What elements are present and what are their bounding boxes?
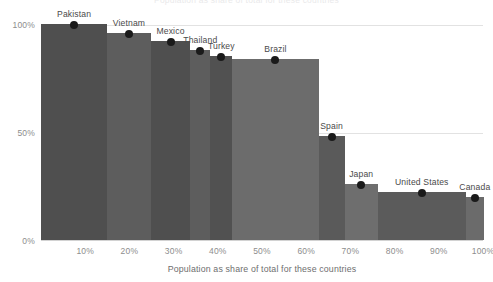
marker-dot-pakistan[interactable] [70, 21, 78, 29]
point-label-pakistan: Pakistan [57, 9, 91, 19]
plot-area: PakistanVietnamMexicoThailandTurkeyBrazi… [41, 25, 483, 241]
bar-turkey[interactable] [210, 56, 232, 240]
point-label-mexico: Mexico [156, 26, 184, 36]
x-tick-90pct: 90% [430, 246, 448, 256]
x-tick-60pct: 60% [297, 246, 315, 256]
x-tick-70pct: 70% [342, 246, 360, 256]
marker-dot-thailand[interactable] [196, 47, 204, 55]
point-label-united-states: United States [395, 177, 449, 187]
x-tick-80pct: 80% [386, 246, 404, 256]
bar-united-states[interactable] [378, 192, 466, 240]
x-tick-100pct: 100% [472, 246, 493, 256]
y-axis-tick-50: 50% [5, 128, 35, 138]
x-tick-10pct: 10% [76, 246, 94, 256]
x-tick-30pct: 30% [165, 246, 183, 256]
point-label-canada: Canada [459, 182, 490, 192]
x-axis-ticks: 10%20%30%40%50%60%70%80%90%100% [41, 246, 483, 260]
x-tick-50pct: 50% [253, 246, 271, 256]
point-label-spain: Spain [320, 121, 343, 131]
marker-dot-turkey[interactable] [217, 53, 225, 61]
bar-spain[interactable] [319, 136, 345, 240]
marker-dot-vietnam[interactable] [125, 30, 133, 38]
x-tick-20pct: 20% [121, 246, 139, 256]
y-axis-tick-0: 0% [5, 236, 35, 246]
point-label-vietnam: Vietnam [113, 18, 145, 28]
bar-japan[interactable] [345, 184, 378, 240]
point-label-brazil: Brazil [264, 44, 286, 54]
bar-mexico[interactable] [151, 41, 191, 240]
bar-vietnam[interactable] [107, 33, 150, 240]
marker-dot-united-states[interactable] [418, 189, 426, 197]
x-axis-title: Population as share of total for these c… [41, 264, 483, 274]
x-tick-40pct: 40% [209, 246, 227, 256]
marker-dot-spain[interactable] [328, 133, 336, 141]
point-label-turkey: Turkey [208, 41, 235, 51]
gridline-100 [41, 25, 483, 26]
marker-dot-mexico[interactable] [167, 38, 175, 46]
bar-thailand[interactable] [190, 50, 210, 240]
gridline-0 [41, 240, 483, 241]
bar-brazil[interactable] [232, 59, 318, 240]
y-axis-tick-100: 100% [5, 20, 35, 30]
marker-dot-canada[interactable] [471, 194, 479, 202]
chart-container: Population as share of total for these c… [0, 0, 493, 282]
marker-dot-japan[interactable] [357, 181, 365, 189]
marker-dot-brazil[interactable] [271, 56, 279, 64]
bar-pakistan[interactable] [41, 24, 107, 240]
point-label-japan: Japan [349, 169, 373, 179]
chart-title-cutoff: Population as share of total for these c… [0, 0, 493, 6]
bar-canada[interactable] [466, 197, 484, 240]
